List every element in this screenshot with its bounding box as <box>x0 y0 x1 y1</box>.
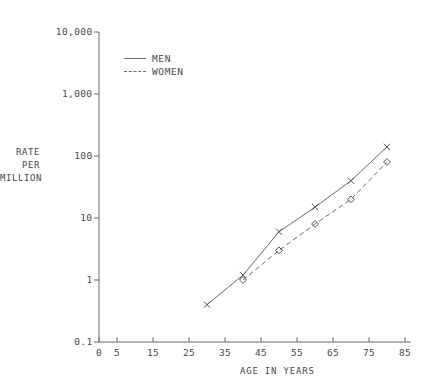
y-axis-title-line: MILLION <box>0 172 40 185</box>
y-tick-label: 0.1 <box>74 336 92 347</box>
x-marker-men <box>240 272 246 278</box>
legend-label-women: WOMEN <box>152 66 184 77</box>
x-tick-label: 85 <box>399 347 411 358</box>
x-marker-men <box>384 144 390 150</box>
x-tick-label: 25 <box>183 347 195 358</box>
y-axis-title: RATE PER MILLION <box>0 146 40 185</box>
solid-line-swatch-icon <box>124 58 146 59</box>
y-tick-label: 10,000 <box>56 26 93 37</box>
x-marker-men <box>348 177 354 183</box>
y-axis-title-line: RATE <box>0 146 40 159</box>
legend-item-men: MEN <box>124 52 184 65</box>
series-line-men <box>207 147 387 305</box>
x-tick-label: 5 <box>114 347 120 358</box>
x-marker-men <box>276 229 282 235</box>
axes-lines <box>99 32 411 342</box>
y-tick-label: 100 <box>74 150 92 161</box>
plot-svg: 0.11101001,00010,000051525354555657585 <box>0 0 444 392</box>
legend: MEN WOMEN <box>124 52 184 78</box>
dashed-line-swatch-icon <box>124 71 146 72</box>
x-tick-label: 0 <box>96 347 102 358</box>
y-tick-label: 10 <box>80 212 92 223</box>
y-tick-label: 1 <box>86 274 92 285</box>
x-tick-label: 65 <box>327 347 339 358</box>
x-tick-label: 45 <box>255 347 267 358</box>
legend-item-women: WOMEN <box>124 65 184 78</box>
x-tick-label: 75 <box>363 347 375 358</box>
x-axis-title: AGE IN YEARS <box>240 366 315 376</box>
chart-canvas: 0.11101001,00010,000051525354555657585 R… <box>0 0 444 392</box>
x-tick-label: 35 <box>219 347 231 358</box>
x-tick-label: 15 <box>147 347 159 358</box>
x-tick-label: 55 <box>291 347 303 358</box>
x-marker-men <box>204 301 210 307</box>
x-marker-men <box>312 204 318 210</box>
y-axis-title-line: PER <box>0 159 40 172</box>
legend-label-men: MEN <box>152 53 171 64</box>
y-tick-label: 1,000 <box>62 88 93 99</box>
